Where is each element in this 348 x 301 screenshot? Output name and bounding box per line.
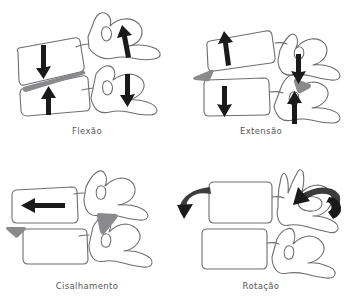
panel-cisalhamento (0, 151, 174, 301)
posterior-facet-wedge (294, 79, 311, 93)
lower-vertebral-body (202, 229, 267, 269)
lower-vertebral-foramen (101, 234, 111, 248)
inferior-body-up-arrow (41, 86, 56, 115)
lower-posterior-element (274, 74, 340, 123)
left-rotation-arrow-head (177, 204, 193, 219)
anterior-disc-wedge (23, 71, 85, 92)
inferior-body-down-arrow (217, 86, 232, 117)
caption-rotacao: Rotação (174, 281, 348, 291)
arrow-group (36, 25, 135, 115)
arrow-group (21, 198, 65, 213)
vertebral-movements-figure: Flexão (0, 0, 348, 301)
upper-posterior-element (84, 171, 148, 220)
caption-flexao: Flexão (0, 126, 174, 136)
lower-pedicle (270, 92, 283, 93)
superior-body-left-arrow (21, 198, 65, 213)
upper-vertebral-body (209, 182, 272, 223)
upper-pedicle (76, 44, 88, 47)
superior-facet-down-arrow (291, 54, 306, 84)
caption-extensao: Extensão (174, 126, 348, 136)
superior-body-up-arrow (218, 31, 233, 66)
superior-body-down-arrow (36, 45, 51, 79)
lower-pedicle (267, 243, 279, 244)
superior-facet-up-arrow (117, 25, 132, 58)
arrow-group (177, 187, 341, 219)
caption-cisalhamento: Cisalhamento (0, 281, 174, 291)
inferior-facet-down-arrow (120, 74, 135, 107)
upper-pedicle (275, 43, 287, 44)
posterior-facet-wedge (97, 213, 118, 234)
lower-vertebral-foramen (284, 246, 294, 260)
upper-vertebral-foramen (102, 27, 112, 41)
upper-pedicle (74, 193, 84, 194)
upper-posterior-element (278, 34, 340, 80)
panel-rotacao (174, 151, 348, 301)
lower-vertebral-body (23, 229, 88, 264)
lower-posterior-element (272, 228, 335, 278)
lower-vertebral-body (204, 78, 270, 116)
lower-vertebral-foramen (103, 81, 113, 95)
upper-vertebral-foramen (96, 186, 106, 200)
lower-posterior-element (91, 66, 157, 115)
lower-pedicle (82, 88, 93, 90)
arrow-group (217, 31, 306, 124)
upper-vertebral-body (207, 31, 275, 71)
